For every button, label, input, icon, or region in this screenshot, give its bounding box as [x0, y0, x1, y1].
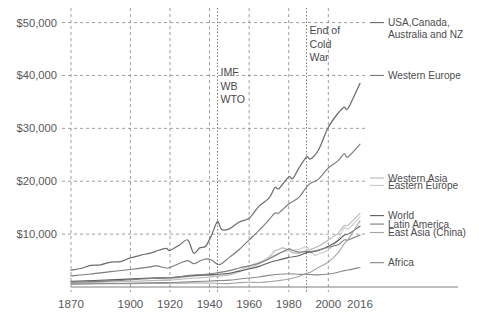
x-tick-label: 1960 [236, 297, 262, 310]
annotation-line: WB [220, 80, 237, 92]
annotation-end-of-cold-war: End ofColdWar [310, 24, 341, 63]
legend-label: USA,Canada, [388, 17, 450, 28]
y-tick-label: $20,000 [17, 175, 57, 187]
legend-item-7[interactable]: Africa [370, 257, 414, 268]
y-axis-tick-labels: $10,000$20,000$30,000$40,000$50,000 [17, 17, 57, 241]
annotation-line: War [310, 51, 329, 63]
legend-item-6[interactable]: East Asia (China) [370, 227, 466, 238]
x-tick-label: 1940 [197, 297, 223, 310]
x-tick-label: 2000 [315, 297, 341, 310]
legend-item-1[interactable]: Western Europe [370, 70, 461, 81]
gdp-per-capita-line-chart: $10,000$20,000$30,000$40,000$50,000 1870… [0, 0, 479, 319]
legend-label: Eastern Europe [388, 180, 459, 191]
legend-label: East Asia (China) [388, 227, 466, 238]
legend-label: Australia and NZ [388, 29, 463, 40]
legend-label: Western Europe [388, 70, 461, 81]
x-tick-label: 2016 [347, 297, 373, 310]
x-tick-label: 1920 [157, 297, 183, 310]
y-tick-label: $30,000 [17, 122, 57, 134]
x-tick-label: 1900 [117, 297, 143, 310]
series-lines [71, 83, 360, 284]
chart-annotations: IMFWBWTOEnd ofColdWar [220, 24, 340, 105]
annotation-line: WTO [220, 93, 245, 105]
y-tick-label: $50,000 [17, 17, 57, 29]
annotation-line: Cold [310, 38, 332, 50]
legend: USA,Canada,Australia and NZWestern Europ… [370, 17, 466, 268]
legend-item-3[interactable]: Eastern Europe [370, 180, 459, 191]
series-line-3 [71, 217, 360, 282]
legend-label: Africa [388, 257, 414, 268]
annotation-line: IMF [220, 66, 239, 78]
annotation-imf-wb-wto: IMFWBWTO [220, 66, 245, 105]
x-tick-label: 1980 [276, 297, 302, 310]
series-line-0 [71, 83, 360, 270]
annotation-line: End of [310, 24, 341, 36]
y-tick-label: $10,000 [17, 228, 57, 240]
x-axis-tick-labels: 18701900192019401960198020002016 [58, 297, 373, 310]
event-marker-lines [217, 8, 306, 292]
y-tick-label: $40,000 [17, 69, 57, 81]
series-line-1 [71, 144, 360, 276]
x-tick-label: 1870 [58, 297, 84, 310]
chart-canvas: $10,000$20,000$30,000$40,000$50,000 1870… [0, 0, 479, 319]
legend-item-0[interactable]: USA,Canada,Australia and NZ [370, 17, 463, 39]
